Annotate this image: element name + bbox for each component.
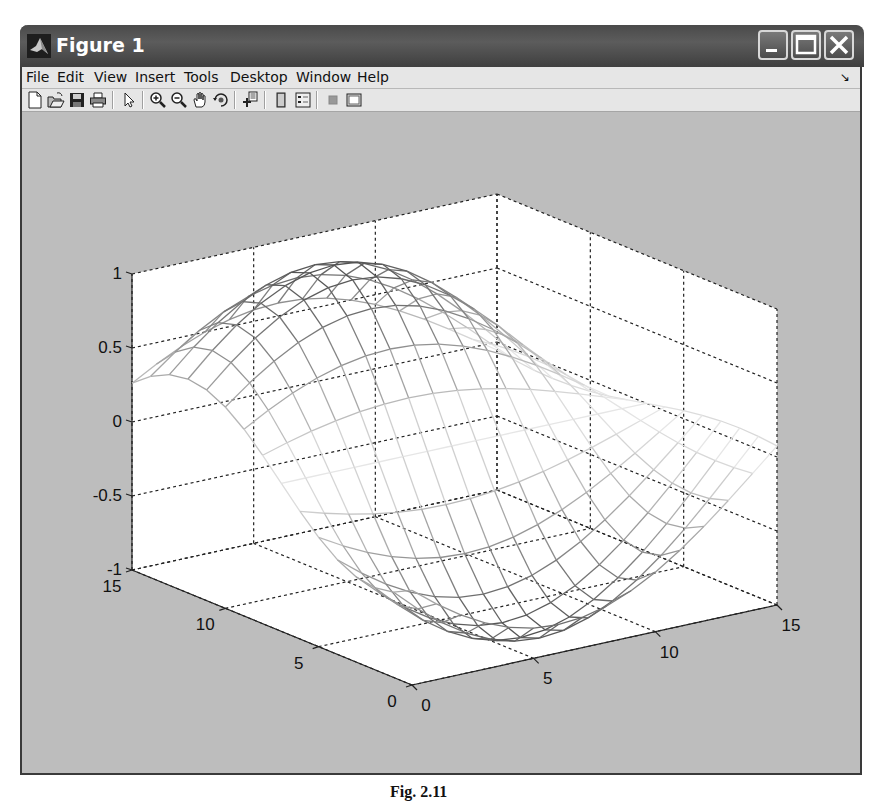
mesh-edge — [635, 453, 654, 470]
mesh-edge — [175, 331, 199, 353]
mesh-edge — [506, 389, 525, 430]
mesh-edge — [287, 443, 306, 478]
mesh-edge — [661, 528, 685, 555]
zoom-in-button[interactable] — [149, 91, 167, 109]
save-figure-button[interactable] — [68, 91, 86, 109]
grid-line — [132, 268, 497, 348]
mesh-edge — [753, 446, 777, 473]
mesh-edge — [450, 295, 469, 318]
menu-help[interactable]: Help — [357, 69, 389, 85]
mesh-edge — [443, 312, 467, 327]
title-bar[interactable]: Figure 1 — [20, 25, 864, 67]
mesh-edge — [194, 323, 218, 348]
menu-insert[interactable]: Insert — [135, 69, 175, 85]
mesh-edge — [622, 403, 646, 408]
mesh-edge — [562, 510, 581, 542]
mesh-edge — [291, 272, 310, 273]
minimize-button[interactable] — [758, 30, 788, 60]
legend-icon — [294, 91, 312, 109]
mesh-edge — [345, 263, 364, 275]
mesh-edge — [341, 366, 360, 412]
hide-plot-tools-button[interactable] — [324, 91, 342, 109]
zoom-out-button[interactable] — [170, 91, 188, 109]
show-plot-tools-button[interactable] — [345, 91, 363, 109]
mesh-edge — [379, 457, 403, 462]
back-pane-x — [497, 194, 777, 605]
mesh-edge — [547, 365, 566, 375]
folder-open-icon — [47, 91, 65, 109]
menu-window[interactable]: Window — [296, 69, 351, 85]
mesh-edge — [132, 364, 156, 383]
3d-mesh-axes[interactable]: -1-0.500.51051015051015 — [2, 0, 872, 800]
mesh-edge — [345, 275, 369, 280]
mesh-edge — [278, 299, 302, 303]
mesh-edge — [513, 525, 537, 537]
mesh-edge — [274, 343, 298, 362]
insert-colorbar-button[interactable] — [272, 91, 290, 109]
mesh-edge — [473, 339, 497, 350]
mesh-edge — [697, 421, 721, 452]
mesh-edge — [586, 492, 605, 519]
mesh-edge — [412, 590, 436, 603]
mesh-edge — [734, 468, 753, 474]
mesh-edge — [440, 558, 459, 598]
mesh-edge — [543, 471, 562, 509]
mesh-edge — [566, 375, 590, 392]
print-figure-button[interactable] — [89, 91, 107, 109]
open-file-button[interactable] — [47, 91, 65, 109]
data-cursor-button[interactable] — [241, 91, 259, 109]
rotate-3d-button[interactable] — [212, 91, 230, 109]
menu-tools[interactable]: Tools — [184, 69, 219, 85]
mesh-edge — [592, 434, 616, 447]
matlab-logo-icon[interactable] — [27, 34, 51, 58]
y-tick — [313, 647, 319, 649]
mesh-edge — [542, 358, 561, 375]
mesh-edge — [579, 394, 603, 397]
mesh-edge — [431, 282, 455, 297]
mesh-edge — [327, 275, 346, 298]
mesh-edge — [393, 592, 417, 609]
menu-edit[interactable]: Edit — [57, 69, 84, 85]
mesh-edge — [403, 451, 427, 456]
mesh-edge — [317, 366, 341, 378]
mesh-edge — [433, 393, 452, 446]
mesh-edge — [529, 357, 553, 379]
mesh-edge — [586, 473, 610, 492]
close-button[interactable] — [824, 30, 854, 60]
mesh-edge — [377, 277, 401, 279]
dock-figure-icon[interactable]: ↘ — [840, 70, 850, 84]
mesh-edge — [319, 537, 343, 545]
mesh-edge — [268, 410, 287, 443]
mesh-edge — [573, 419, 592, 447]
mesh-edge — [285, 273, 309, 286]
mesh-edge — [504, 335, 523, 345]
mesh-edge — [710, 499, 729, 501]
mesh-edge — [655, 550, 679, 572]
mesh-edge — [575, 586, 594, 600]
mesh-edge — [403, 457, 422, 510]
mesh-edge — [242, 285, 266, 302]
pan-button[interactable] — [191, 91, 209, 109]
mesh-edge — [470, 491, 494, 499]
menu-view[interactable]: View — [94, 69, 127, 85]
mesh-edge — [377, 277, 396, 305]
grid-line — [254, 543, 534, 658]
mesh-edge — [354, 462, 378, 467]
mesh-edge — [383, 264, 407, 271]
mesh-edge — [244, 410, 268, 429]
edit-plot-button[interactable] — [120, 91, 138, 109]
mesh-edge — [448, 328, 467, 329]
x-tick-label: 0 — [421, 696, 430, 715]
insert-legend-button[interactable] — [294, 91, 312, 109]
mesh-edge — [422, 509, 441, 557]
maximize-button[interactable] — [791, 30, 821, 60]
mesh-edge — [499, 326, 523, 345]
menu-desktop[interactable]: Desktop — [230, 69, 288, 85]
menu-file[interactable]: File — [26, 69, 49, 85]
grid-line — [375, 517, 655, 632]
mesh-edge — [588, 601, 612, 618]
mesh-edge — [298, 343, 317, 379]
mesh-edge — [476, 441, 495, 491]
new-figure-button[interactable] — [26, 91, 44, 109]
mesh-edge — [495, 491, 514, 537]
